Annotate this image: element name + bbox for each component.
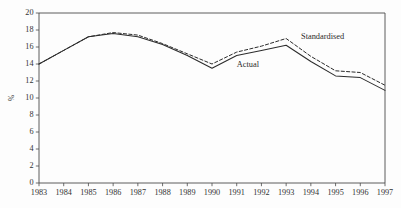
y-tick-label: 14: [25, 59, 33, 68]
series-label-standardised: Standardised: [301, 32, 345, 41]
x-tick-label: 1990: [204, 188, 220, 197]
x-tick-label: 1991: [229, 188, 245, 197]
x-tick-label: 1995: [327, 188, 343, 197]
x-axis-ticks: 1983198419851986198719881989199019911992…: [31, 183, 393, 197]
y-tick-label: 4: [29, 144, 33, 153]
series-actual: [39, 33, 385, 90]
y-tick-label: 12: [25, 76, 33, 85]
y-tick-label: 16: [25, 42, 33, 51]
y-tick-label: 8: [29, 110, 33, 119]
y-axis-title: %: [7, 95, 16, 101]
y-tick-label: 0: [29, 178, 33, 187]
x-tick-label: 1988: [154, 188, 170, 197]
x-tick-label: 1994: [303, 188, 319, 197]
y-tick-label: 18: [25, 25, 33, 34]
y-axis-ticks: 02468101214161820: [25, 8, 39, 187]
x-tick-label: 1997: [377, 188, 393, 197]
y-tick-label: 20: [25, 8, 33, 17]
chart-figure: 02468101214161820 1983198419851986198719…: [0, 0, 401, 208]
x-tick-label: 1986: [105, 188, 121, 197]
x-tick-label: 1996: [352, 188, 368, 197]
x-tick-label: 1992: [253, 188, 269, 197]
series-label-actual: Actual: [237, 60, 260, 69]
series-annotations: ActualStandardised: [237, 32, 345, 69]
x-tick-label: 1993: [278, 188, 294, 197]
y-tick-label: 2: [29, 161, 33, 170]
x-tick-label: 1987: [130, 188, 146, 197]
x-tick-label: 1983: [31, 188, 47, 197]
y-tick-label: 6: [29, 127, 33, 136]
line-chart: 02468101214161820 1983198419851986198719…: [0, 0, 401, 208]
y-tick-label: 10: [25, 93, 33, 102]
x-tick-label: 1984: [56, 188, 72, 197]
x-tick-label: 1985: [80, 188, 96, 197]
x-tick-label: 1989: [179, 188, 195, 197]
